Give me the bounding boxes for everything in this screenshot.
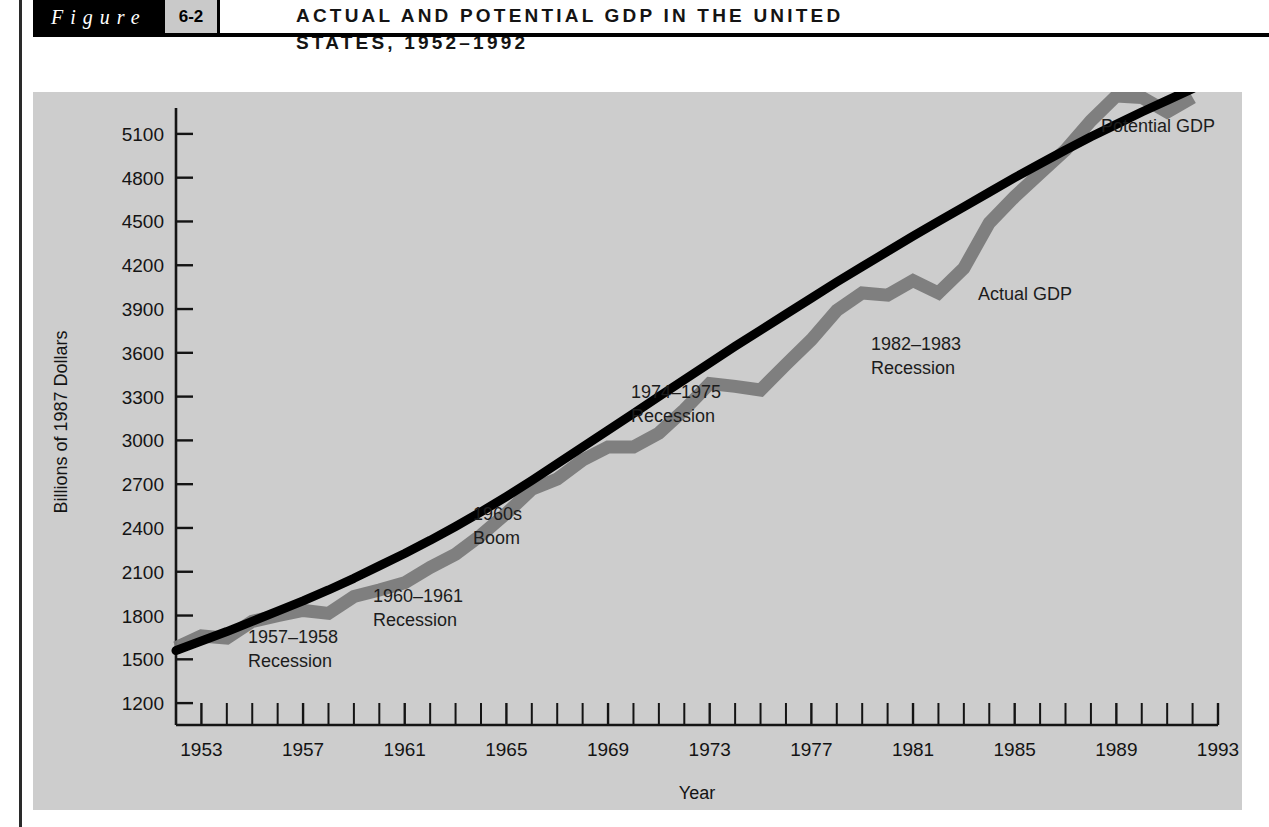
y-tick-label: 2400 [122,518,164,539]
chart-annotations: Potential GDPActual GDP1982–1983Recessio… [248,116,1215,671]
annotation-actual-gdp-line1: Actual GDP [978,284,1072,304]
y-tick-label: 3300 [122,387,164,408]
y-axis-title: Billions of 1987 Dollars [51,330,71,513]
y-tick-label: 2100 [122,562,164,583]
annotation-boom-1960s-line1: 1960s [473,504,522,524]
y-tick-label: 1800 [122,606,164,627]
annotation-recession-1974-line1: 1974–1975 [631,382,721,402]
annotation-actual-gdp: Actual GDP [978,284,1072,304]
annotation-recession-1960-line2: Recession [373,610,457,630]
x-tick-label: 1969 [587,739,629,760]
annotation-recession-1957: 1957–1958Recession [248,627,338,671]
x-tick-label: 1989 [1095,739,1137,760]
annotation-recession-1960: 1960–1961Recession [373,586,463,630]
annotation-recession-1957-line1: 1957–1958 [248,627,338,647]
annotation-recession-1982-line1: 1982–1983 [871,334,961,354]
figure-header: Figure 6-2 ACTUAL AND POTENTIAL GDP IN T… [0,0,1269,63]
x-tick-labels: 1953195719611965196919731977198119851989… [180,739,1239,760]
x-tick-label: 1965 [485,739,527,760]
y-tick-label: 1500 [122,649,164,670]
y-tick-label: 3600 [122,343,164,364]
x-axis-title: Year [679,783,715,803]
figure-title-line1: ACTUAL AND POTENTIAL GDP IN THE UNITED [296,5,843,26]
figure-title: ACTUAL AND POTENTIAL GDP IN THE UNITEDST… [296,2,843,56]
x-tick-label: 1953 [180,739,222,760]
x-tick-label: 1993 [1197,739,1239,760]
annotation-recession-1974-line2: Recession [631,406,715,426]
gdp-line-chart: 1200150018002100240027003000330036003900… [33,92,1242,810]
chart-series [176,92,1193,651]
x-tick-label: 1985 [994,739,1036,760]
figure-number-badge: 6-2 [165,0,221,33]
y-tick-labels: 1200150018002100240027003000330036003900… [122,124,164,714]
annotation-potential-gdp-line1: Potential GDP [1101,116,1215,136]
annotation-recession-1982-line2: Recession [871,358,955,378]
annotation-recession-1982: 1982–1983Recession [871,334,961,378]
y-tick-label: 3900 [122,299,164,320]
y-tick-label: 4500 [122,211,164,232]
x-tick-label: 1973 [689,739,731,760]
figure-tag: Figure 6-2 [33,0,220,33]
x-tick-label: 1961 [384,739,426,760]
actual-gdp-line [176,96,1193,648]
annotation-recession-1960-line1: 1960–1961 [373,586,463,606]
annotation-boom-1960s-line2: Boom [473,528,520,548]
chart-panel: 1200150018002100240027003000330036003900… [33,92,1242,810]
x-tick-label: 1981 [892,739,934,760]
y-tick-label: 3000 [122,430,164,451]
y-tick-label: 5100 [122,124,164,145]
header-divider [33,33,1269,37]
annotation-potential-gdp: Potential GDP [1101,116,1215,136]
page-left-rule [19,0,22,827]
annotation-recession-1957-line2: Recession [248,651,332,671]
figure-label: Figure [33,0,165,33]
y-tick-label: 4200 [122,255,164,276]
x-tick-label: 1957 [282,739,324,760]
x-tick-label: 1977 [790,739,832,760]
y-tick-label: 4800 [122,168,164,189]
y-tick-label: 1200 [122,693,164,714]
y-tick-label: 2700 [122,474,164,495]
